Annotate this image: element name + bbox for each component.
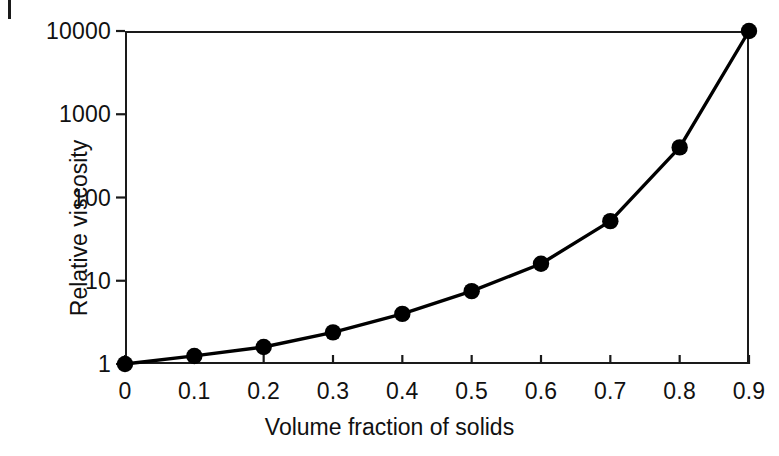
- x-axis-tick-label: 0.4: [386, 378, 419, 405]
- y-axis-tick-labels: 110100100010000: [0, 0, 111, 456]
- x-axis-tick-label: 0.8: [663, 378, 696, 405]
- y-axis-ticks: [116, 31, 125, 364]
- x-axis-tick-label: 0.5: [455, 378, 488, 405]
- x-axis-tick-label: 0.7: [594, 378, 627, 405]
- x-axis-tick-label: 0: [119, 378, 132, 405]
- x-axis-tick-label: 0.9: [733, 378, 766, 405]
- x-axis-tick-label: 0.2: [247, 378, 280, 405]
- y-axis-tick-label: 10000: [46, 18, 111, 45]
- chart-figure: 110100100010000 00.10.20.30.40.50.60.70.…: [0, 0, 779, 456]
- y-axis-title: Relative viscosity: [66, 63, 93, 393]
- x-axis-tick-label: 0.6: [525, 378, 558, 405]
- x-axis-tick-label: 0.3: [317, 378, 350, 405]
- x-axis-title: Volume fraction of solids: [0, 414, 779, 441]
- y-axis-tick-label: 1: [98, 351, 111, 378]
- plot-frame: [125, 31, 749, 364]
- x-axis-tick-label: 0.1: [178, 378, 211, 405]
